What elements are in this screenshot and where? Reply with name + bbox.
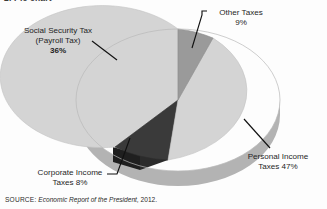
label-social-percent: 36% — [8, 46, 108, 56]
label-social-security-tax: Social Security Tax (Payroll Tax) 36% — [8, 26, 108, 57]
label-corporate-line2: Taxes 8% — [22, 178, 118, 188]
label-personal-income-taxes: Personal Income Taxes 47% — [232, 152, 324, 172]
label-corporate-line1: Corporate Income — [22, 168, 118, 178]
source-title: Economic Report of the President, — [38, 196, 138, 203]
source-prefix: SOURCE: — [5, 196, 36, 203]
label-other-percent: 9% — [205, 18, 277, 28]
leader-personal-income — [244, 119, 270, 148]
pie-chart-figure: 2. Pie chart — [0, 0, 327, 209]
label-personal-line2: Taxes 47% — [232, 162, 324, 172]
label-social-line2: (Payroll Tax) — [8, 36, 108, 46]
label-other-taxes: Other Taxes 9% — [205, 8, 277, 28]
label-personal-line1: Personal Income — [232, 152, 324, 162]
label-social-line1: Social Security Tax — [8, 26, 108, 36]
source-note: SOURCE: Economic Report of the President… — [5, 196, 157, 203]
source-year: 2012. — [141, 196, 158, 203]
label-corporate-income-taxes: Corporate Income Taxes 8% — [22, 168, 118, 188]
label-other-line1: Other Taxes — [205, 8, 277, 18]
